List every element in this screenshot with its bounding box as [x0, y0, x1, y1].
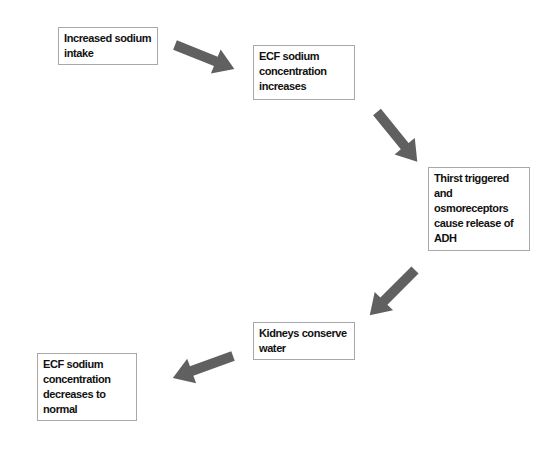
arrow-left-icon: [168, 344, 237, 390]
arrows-layer: [0, 0, 553, 458]
arrow-down-right-icon: [367, 104, 427, 170]
arrow-right-down-icon: [170, 33, 239, 81]
arrow-down-left-icon: [361, 261, 425, 325]
